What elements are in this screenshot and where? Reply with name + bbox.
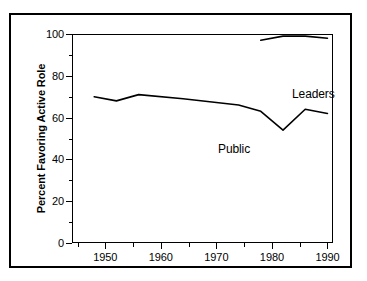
y-tick-label: 80	[52, 70, 64, 81]
plot-area: 020406080100 19501960197019801990 Public…	[72, 34, 333, 243]
x-tick-major	[216, 243, 217, 249]
x-tick-minor	[133, 243, 134, 247]
x-tick-minor	[189, 243, 190, 247]
x-tick-label: 1960	[149, 252, 173, 263]
x-tick-major	[161, 243, 162, 249]
y-tick-label: 60	[52, 112, 64, 123]
x-tick-minor	[78, 243, 79, 247]
x-tick-major	[327, 243, 328, 249]
y-tick-label: 20	[52, 196, 64, 207]
y-axis-title: Percent Favoring Active Role	[33, 34, 49, 243]
x-tick-minor	[244, 243, 245, 247]
x-tick-major	[105, 243, 106, 249]
series-line-leaders	[261, 36, 328, 40]
x-tick-label: 1980	[260, 252, 284, 263]
y-tick-label: 0	[58, 238, 64, 249]
series-label-public: Public	[218, 143, 250, 155]
x-tick-label: 1970	[204, 252, 228, 263]
x-tick-major	[272, 243, 273, 249]
chart-figure: Percent Favoring Active Role 02040608010…	[0, 0, 367, 281]
x-tick-minor	[300, 243, 301, 247]
series-label-leaders: Leaders	[292, 88, 335, 100]
data-lines	[72, 34, 333, 243]
x-tick-label: 1990	[315, 252, 339, 263]
y-tick-label: 100	[46, 29, 64, 40]
y-tick-major	[66, 243, 72, 244]
y-tick-label: 40	[52, 154, 64, 165]
x-tick-label: 1950	[93, 252, 117, 263]
